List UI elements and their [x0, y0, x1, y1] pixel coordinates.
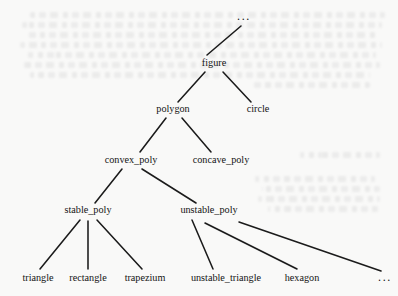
tree-edge: [192, 220, 213, 269]
tree-edge: [142, 169, 196, 203]
tree-edge: [97, 220, 142, 269]
tree-node-leaf_ellipsis[interactable]: ...: [378, 270, 392, 284]
tree-node-stable_poly[interactable]: stable_poly: [65, 204, 113, 215]
tree-node-polygon[interactable]: polygon: [156, 103, 189, 114]
tree-canvas: ...figurepolygoncircleconvex_polyconcave…: [0, 0, 398, 296]
tree-node-root_ellipsis[interactable]: ...: [237, 9, 251, 23]
tree-node-figure[interactable]: figure: [202, 57, 227, 68]
tree-node-convex_poly[interactable]: convex_poly: [105, 154, 159, 165]
tree-edge: [223, 72, 251, 102]
tree-node-hexagon[interactable]: hexagon: [285, 272, 320, 283]
tree-node-triangle[interactable]: triangle: [22, 272, 54, 283]
tree-edge: [239, 222, 381, 271]
tree-node-trapezium[interactable]: trapezium: [125, 272, 166, 283]
tree-node-unstable_poly[interactable]: unstable_poly: [180, 204, 238, 215]
tree-edge: [140, 118, 166, 152]
tree-edge: [207, 26, 241, 55]
tree-diagram: ...figurepolygoncircleconvex_polyconcave…: [0, 0, 398, 296]
tree-edge: [40, 220, 80, 269]
tree-node-rectangle[interactable]: rectangle: [69, 272, 107, 283]
tree-edge: [95, 169, 122, 203]
tree-node-concave_poly[interactable]: concave_poly: [193, 154, 250, 165]
tree-node-unstable_triangle[interactable]: unstable_triangle: [191, 272, 262, 283]
tree-node-circle[interactable]: circle: [247, 103, 270, 114]
tree-edge: [178, 72, 205, 102]
tree-edge: [205, 223, 297, 269]
tree-edge: [182, 118, 211, 152]
